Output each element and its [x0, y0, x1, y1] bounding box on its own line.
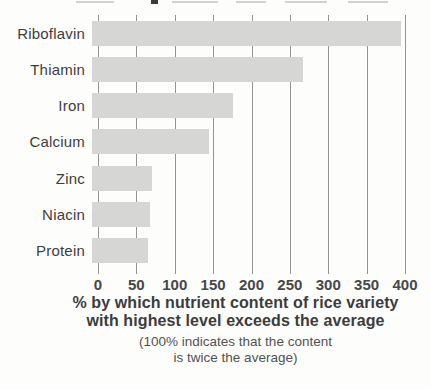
bar-calcium: [92, 129, 209, 154]
bar-track: [92, 21, 405, 46]
rice-nutrient-bar-chart: RiboflavinThiaminIronCalciumZincNiacinPr…: [0, 0, 431, 389]
gridline-400: [405, 15, 406, 274]
chart-row-calcium: Calcium: [0, 124, 405, 160]
chart-row-niacin: Niacin: [0, 196, 405, 232]
x-axis-note-line1: (100% indicates that the content: [40, 334, 431, 350]
chart-row-protein: Protein: [0, 233, 405, 269]
x-tick-label-150: 150: [201, 276, 226, 293]
x-tick-label-300: 300: [316, 276, 341, 293]
category-label-calcium: Calcium: [0, 133, 92, 150]
x-axis-caption: % by which nutrient content of rice vari…: [40, 294, 431, 366]
bar-track: [92, 93, 405, 118]
x-axis-title-line1: % by which nutrient content of rice vari…: [40, 294, 431, 312]
category-label-thiamin: Thiamin: [0, 61, 92, 78]
bar-iron: [92, 93, 233, 118]
chart-row-zinc: Zinc: [0, 160, 405, 196]
bar-track: [92, 129, 405, 154]
x-tick-label-250: 250: [277, 276, 302, 293]
chart-row-riboflavin: Riboflavin: [0, 15, 405, 51]
cropped-title-fragment: [0, 0, 431, 5]
x-tick-label-200: 200: [239, 276, 264, 293]
category-label-niacin: Niacin: [0, 206, 92, 223]
bar-track: [92, 238, 405, 263]
category-label-zinc: Zinc: [0, 170, 92, 187]
chart-row-iron: Iron: [0, 88, 405, 124]
x-tick-label-0: 0: [94, 276, 102, 293]
x-axis-note-line2: is twice the average): [40, 350, 431, 366]
x-tick-label-100: 100: [162, 276, 187, 293]
bar-track: [92, 202, 405, 227]
bar-zinc: [92, 166, 152, 191]
bar-protein: [92, 238, 148, 263]
chart-row-thiamin: Thiamin: [0, 51, 405, 87]
x-axis-title-line2: with highest level exceeds the average: [40, 312, 431, 330]
x-tick-label-50: 50: [128, 276, 145, 293]
category-label-iron: Iron: [0, 97, 92, 114]
chart-rows: RiboflavinThiaminIronCalciumZincNiacinPr…: [0, 15, 405, 269]
bar-track: [92, 57, 405, 82]
category-label-riboflavin: Riboflavin: [0, 25, 92, 42]
bar-thiamin: [92, 57, 303, 82]
x-tick-label-400: 400: [392, 276, 417, 293]
x-axis-tick-labels: 050100150200250300350400: [98, 276, 405, 293]
category-label-protein: Protein: [0, 242, 92, 259]
bar-niacin: [92, 202, 150, 227]
bar-track: [92, 166, 405, 191]
x-tick-label-350: 350: [354, 276, 379, 293]
bar-riboflavin: [92, 21, 401, 46]
